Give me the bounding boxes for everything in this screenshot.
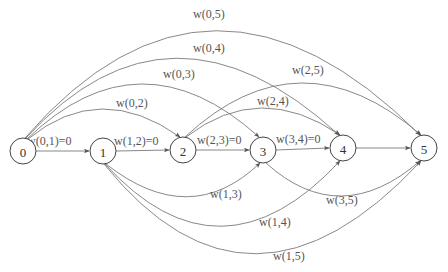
edge-0-3 bbox=[27, 84, 259, 139]
node-label-5: 5 bbox=[421, 142, 428, 157]
edge-label-3-5: w(3,5) bbox=[326, 193, 358, 207]
edge-label-1-4: w(1,4) bbox=[259, 215, 291, 229]
node-label-1: 1 bbox=[100, 145, 107, 160]
edge-label-0-2: w(0,2) bbox=[116, 96, 148, 110]
node-label-2: 2 bbox=[180, 144, 187, 159]
edge-label-2-5: w(2,5) bbox=[292, 63, 324, 77]
edge-3-5 bbox=[266, 161, 420, 196]
edge-label-1-3: w(1,3) bbox=[210, 187, 242, 201]
node-5: 5 bbox=[411, 135, 437, 161]
edge-label-3-4: w(3,4)=0 bbox=[276, 132, 320, 146]
edge-label-0-3: w(0,3) bbox=[163, 67, 195, 81]
edge-2-5 bbox=[185, 83, 421, 137]
node-3: 3 bbox=[250, 137, 276, 163]
edge-label-2-4: w(2,4) bbox=[257, 94, 289, 108]
node-label-0: 0 bbox=[20, 145, 27, 160]
edge-label-2-3: w(2,3)=0 bbox=[197, 133, 241, 147]
edge-label-0-4: w(0,4) bbox=[193, 41, 225, 55]
node-label-3: 3 bbox=[260, 144, 267, 159]
edge-3-4 bbox=[276, 148, 329, 150]
edge-label-1-2: w(1,2)=0 bbox=[114, 134, 158, 148]
edge-1-5 bbox=[104, 161, 421, 254]
node-1: 1 bbox=[90, 138, 116, 164]
edge-label-0-5: w(0,5) bbox=[193, 7, 225, 21]
node-0: 0 bbox=[10, 138, 36, 164]
edge-1-2 bbox=[116, 150, 169, 151]
edge-label-1-5: w(1,5) bbox=[273, 249, 305, 263]
node-2: 2 bbox=[170, 137, 196, 163]
dag-diagram: w(0,1)=0 w(1,2)=0 w(2,3)=0 w(3,4)=0 w(0,… bbox=[0, 0, 448, 272]
node-4: 4 bbox=[330, 135, 356, 161]
node-label-4: 4 bbox=[340, 142, 347, 157]
